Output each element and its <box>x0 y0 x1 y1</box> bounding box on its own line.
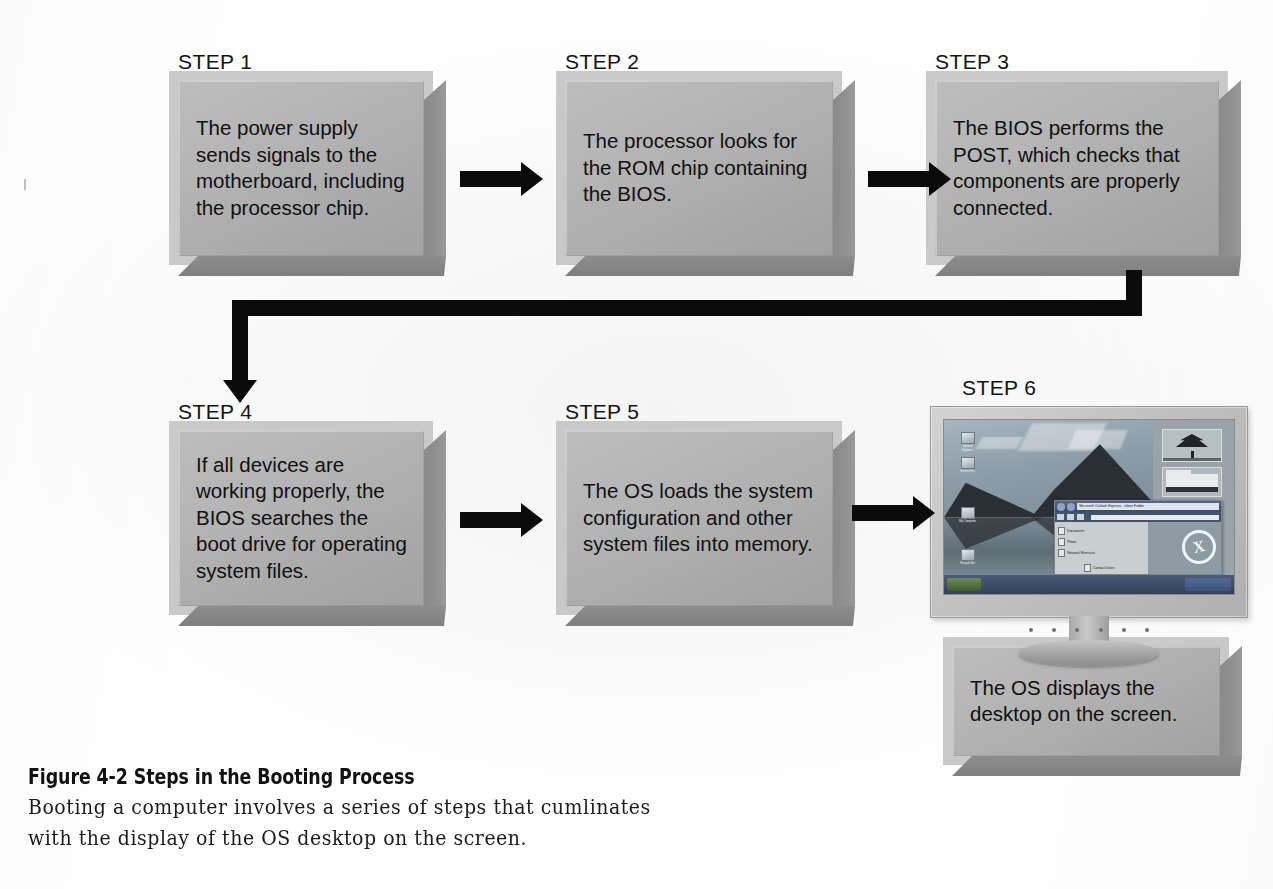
step-text-6: The OS displays the desktop on the scree… <box>970 675 1206 728</box>
step-box-1-text-wrap: The power supply sends signals to the mo… <box>178 80 424 256</box>
application-logo-icon: X <box>1182 530 1216 564</box>
monitor-illustration: Internet Explorer Eudora Pro My Computer… <box>930 406 1248 668</box>
explorer-toolbar[interactable] <box>1055 512 1221 522</box>
step-label-2: STEP 2 <box>565 50 639 74</box>
step-box-5-text-wrap: The OS loads the system configuration an… <box>565 430 833 606</box>
eudora-pro-icon <box>961 457 975 469</box>
step-box-3: The BIOS performs the POST, which checks… <box>935 80 1241 276</box>
folder-label: Documents <box>1067 529 1084 533</box>
folder-label: Photo <box>1067 540 1076 544</box>
desktop-icon-eudora-pro[interactable]: Eudora Pro <box>959 457 977 473</box>
explorer-window[interactable]: Microsoft Outlook Express - Inbox Folder… <box>1054 500 1222 575</box>
step-text-1: The power supply sends signals to the mo… <box>196 115 410 221</box>
step-box-2-side <box>833 80 855 256</box>
address-bar-input[interactable] <box>1091 515 1219 520</box>
folder-label: Network Shortcuts <box>1067 551 1095 555</box>
monitor-base <box>1019 640 1159 666</box>
figure-caption-title: Figure 4-2 Steps in the Booting Process <box>28 764 415 789</box>
desktop-icon-label: Internet Explorer <box>959 445 977 452</box>
step-text-4: If all devices are working properly, the… <box>196 452 410 585</box>
step-box-4: If all devices are working properly, the… <box>178 430 446 626</box>
step-box-4-side <box>424 430 446 606</box>
step-text-2: The processor looks for the ROM chip con… <box>583 128 819 208</box>
figure-page: STEP 1 The power supply sends signals to… <box>0 0 1273 889</box>
arrow-step5-to-step6 <box>852 505 914 521</box>
explorer-title-text: Microsoft Outlook Express - Inbox Folder <box>1077 503 1219 510</box>
connector-segment-down-left <box>232 300 248 382</box>
system-tray[interactable] <box>1185 578 1231 592</box>
arrow-step4-to-step5 <box>460 512 522 528</box>
connector-step3-to-step4 <box>232 270 1142 408</box>
logo-glyph: X <box>1191 538 1206 556</box>
taskbar[interactable] <box>944 575 1234 594</box>
arrow-step2-to-step3 <box>868 171 930 187</box>
recycle-bin-icon <box>961 549 975 561</box>
explorer-right-pane: X <box>1148 522 1221 574</box>
monitor-bezel: Internet Explorer Eudora Pro My Computer… <box>930 406 1248 618</box>
step-box-2-text-wrap: The processor looks for the ROM chip con… <box>565 80 833 256</box>
forward-icon[interactable] <box>1067 503 1075 511</box>
monitor-dot-icon[interactable] <box>1075 628 1079 632</box>
monitor-screen: Internet Explorer Eudora Pro My Computer… <box>943 419 1235 595</box>
thumbnail-folder <box>1162 467 1223 497</box>
tree-ground <box>1163 458 1222 461</box>
step-box-6-bottom <box>952 756 1242 776</box>
folder-icon <box>1058 527 1065 535</box>
step-box-4-text-wrap: If all devices are working properly, the… <box>178 430 424 606</box>
step-text-3: The BIOS performs the POST, which checks… <box>953 115 1205 221</box>
figure-number: Figure 4-2 <box>28 764 128 789</box>
connector-segment-horizontal <box>232 300 1142 316</box>
step-box-2: The processor looks for the ROM chip con… <box>565 80 855 276</box>
file-icon <box>1084 564 1091 572</box>
monitor-dot-icon[interactable] <box>1029 628 1033 632</box>
desktop-icon-label: Eudora Pro <box>959 470 977 473</box>
step-box-4-bottom <box>178 606 446 626</box>
explorer-titlebar[interactable]: Microsoft Outlook Express - Inbox Folder <box>1055 501 1221 512</box>
explorer-folder-item[interactable]: Network Shortcuts <box>1058 549 1145 557</box>
folder-strip <box>1166 487 1218 493</box>
toolbar-button-1-icon[interactable] <box>1057 514 1064 520</box>
explorer-folder-item[interactable]: Photo <box>1058 538 1145 546</box>
step-box-5-bottom <box>565 606 855 626</box>
start-button[interactable] <box>947 578 981 592</box>
file-label: Contact Users <box>1093 566 1114 570</box>
monitor-dot-icon[interactable] <box>1122 628 1126 632</box>
monitor-dot-icon[interactable] <box>1145 628 1149 632</box>
step-label-3: STEP 3 <box>935 50 1009 74</box>
toolbar-button-2-icon[interactable] <box>1067 514 1074 520</box>
desktop-icon-label: My Computer <box>959 520 977 523</box>
figure-caption-body: Booting a computer involves a series of … <box>28 792 707 854</box>
step-box-1-side <box>424 80 446 256</box>
page-edge-mark <box>24 179 26 190</box>
step-text-5: The OS loads the system configuration an… <box>583 478 819 558</box>
explorer-folder-item[interactable]: Documents <box>1058 527 1145 535</box>
step-box-3-text-wrap: The BIOS performs the POST, which checks… <box>935 80 1219 256</box>
step-box-3-side <box>1219 80 1241 256</box>
folder-icon <box>1058 538 1065 546</box>
thumbnail-tree <box>1162 429 1223 462</box>
step-box-5: The OS loads the system configuration an… <box>565 430 855 626</box>
step-box-1: The power supply sends signals to the mo… <box>178 80 446 276</box>
wallpaper-cloud-3 <box>975 437 1023 449</box>
explorer-body: Documents Photo Network Shortcuts <box>1055 522 1221 574</box>
figure-title: Steps in the Booting Process <box>134 764 415 789</box>
my-computer-icon <box>961 507 975 519</box>
toolbar-button-3-icon[interactable] <box>1077 514 1084 520</box>
desktop-icon-label: Recycle Bin <box>959 562 977 565</box>
monitor-dot-icon[interactable] <box>1052 628 1056 632</box>
desktop-icon-my-computer[interactable]: My Computer <box>959 507 977 523</box>
internet-explorer-icon <box>961 432 975 444</box>
explorer-left-pane[interactable]: Documents Photo Network Shortcuts <box>1055 522 1148 574</box>
desktop-icon-recycle-bin[interactable]: Recycle Bin <box>959 549 977 565</box>
tree-canopy-icon <box>1174 434 1211 452</box>
back-icon[interactable] <box>1057 503 1065 511</box>
monitor-control-dots[interactable] <box>1029 628 1149 634</box>
arrow-step1-to-step2 <box>460 171 522 187</box>
monitor-dot-icon[interactable] <box>1099 628 1103 632</box>
explorer-file-item[interactable]: Contact Users <box>1084 564 1145 572</box>
desktop-icon-internet-explorer[interactable]: Internet Explorer <box>959 432 977 452</box>
folder-icon <box>1058 549 1065 557</box>
connector-arrowhead-down <box>223 380 257 403</box>
step-label-1: STEP 1 <box>178 50 252 74</box>
